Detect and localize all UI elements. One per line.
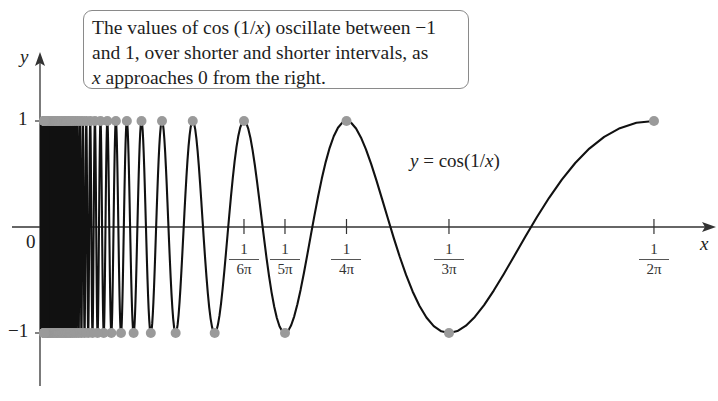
x-tick-numerator: 1 — [229, 241, 259, 260]
minimum-dot — [280, 328, 290, 338]
x-tick-denominator: 3π — [434, 260, 464, 278]
x-tick-denominator: 4π — [331, 260, 361, 278]
x-tick-label: 12π — [639, 241, 669, 278]
x-tick-denominator: 6π — [229, 260, 259, 278]
x-tick-label: 14π — [331, 241, 361, 278]
y-axis-label: y — [20, 46, 28, 68]
minimum-dot — [129, 328, 139, 338]
maximum-dot — [157, 116, 167, 126]
maximum-dot — [122, 116, 132, 126]
callout-line-3: x approaches 0 from the right. — [92, 65, 468, 90]
callout-line-2: and 1, over shorter and shorter interval… — [92, 40, 468, 65]
minimum-dot — [444, 328, 454, 338]
x-tick-denominator: 5π — [270, 260, 300, 278]
callout-line-1: The values of cos (1/x) oscillate betwee… — [92, 15, 468, 40]
maximum-dot — [649, 116, 659, 126]
curve-label: y = cos(1/x) — [410, 150, 500, 172]
minimum-dot — [39, 328, 49, 338]
x-tick-label: 16π — [229, 241, 259, 278]
x-tick-numerator: 1 — [331, 241, 361, 260]
minimum-dot — [210, 328, 220, 338]
minimum-dot — [116, 328, 126, 338]
maximum-dot — [111, 116, 121, 126]
x-tick-numerator: 1 — [434, 241, 464, 260]
y-tick-label-1: 1 — [18, 108, 28, 130]
maximum-dot — [341, 116, 351, 126]
minimum-dot — [171, 328, 181, 338]
maximum-dot — [239, 116, 249, 126]
x-tick-numerator: 1 — [639, 241, 669, 260]
x-tick-numerator: 1 — [270, 241, 300, 260]
maximum-dot — [39, 116, 49, 126]
y-tick-label-neg1: −1 — [8, 320, 28, 342]
x-tick-denominator: 2π — [639, 260, 669, 278]
x-axis-label: x — [700, 233, 708, 255]
x-tick-label: 15π — [270, 241, 300, 278]
maximum-dot — [188, 116, 198, 126]
minimum-dot — [146, 328, 156, 338]
origin-label: 0 — [26, 231, 36, 253]
x-tick-label: 13π — [434, 241, 464, 278]
maximum-dot — [136, 116, 146, 126]
dense-oscillation-region — [40, 121, 50, 333]
callout-box: The values of cos (1/x) oscillate betwee… — [83, 10, 469, 89]
